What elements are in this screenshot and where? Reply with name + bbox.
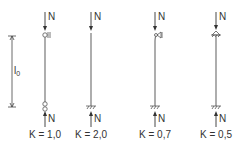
k-label: K = 1,0: [29, 129, 61, 140]
column-fixed-pinned: N N K = 0,7: [139, 11, 171, 140]
length-dimension: l0: [8, 36, 20, 107]
load-label: N: [94, 11, 101, 22]
hinge-icon: [43, 33, 47, 37]
arrow-up-icon: [153, 111, 157, 116]
arrow-down-icon: [89, 26, 93, 31]
column-fixed-free: N N K = 2,0: [75, 11, 107, 140]
fixed-support-icon: [150, 106, 160, 109]
load-label: N: [94, 113, 101, 124]
load-label: N: [158, 113, 165, 124]
hinge-icon: [43, 102, 47, 106]
k-label: K = 2,0: [75, 129, 107, 140]
k-label: K = 0,7: [139, 129, 171, 140]
buckling-diagram: l0 N N K = 1,0 N N K = 2,0 N: [0, 0, 236, 147]
column-pinned-pinned: N N K = 1,0: [29, 11, 61, 140]
load-label: N: [219, 11, 226, 22]
arrow-down-icon: [214, 25, 218, 30]
arrow-up-icon: [214, 111, 218, 116]
load-label: N: [219, 113, 226, 124]
arrow-down-icon: [153, 26, 157, 31]
column-fixed-fixed: N N K = 0,5: [200, 11, 232, 140]
load-label: N: [48, 11, 55, 22]
length-label: l0: [14, 65, 20, 77]
load-label: N: [158, 11, 165, 22]
arrow-down-icon: [43, 26, 47, 31]
k-label: K = 0,5: [200, 129, 232, 140]
load-label: N: [48, 113, 55, 124]
arrow-up-icon: [43, 111, 47, 116]
arrow-up-icon: [89, 111, 93, 116]
fixed-support-icon: [211, 106, 221, 109]
fixed-support-icon: [86, 106, 96, 109]
